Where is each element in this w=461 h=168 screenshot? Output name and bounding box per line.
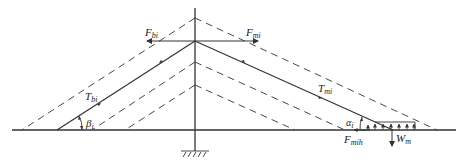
label-F-mi: Fmi xyxy=(245,26,261,40)
back-stay xyxy=(57,41,195,130)
label-W-m: Wm xyxy=(396,132,411,146)
label-F-mih: Fmih xyxy=(343,133,363,147)
reaction-arrows xyxy=(368,124,414,130)
label-beta-i: βi xyxy=(85,117,94,131)
label-F-bi: Fbi xyxy=(144,26,158,40)
dashed-stays xyxy=(22,18,437,130)
mast-cable-diagram: Fbi Fmi Tbi Tmi βi αi Fmih Wm xyxy=(0,0,461,168)
anchor-block xyxy=(375,122,415,130)
fixed-support-icon xyxy=(181,151,209,157)
label-T-mi: Tmi xyxy=(318,82,332,96)
label-alpha-i: αi xyxy=(346,117,353,130)
main-stay xyxy=(195,41,393,130)
label-T-bi: Tbi xyxy=(85,90,97,104)
